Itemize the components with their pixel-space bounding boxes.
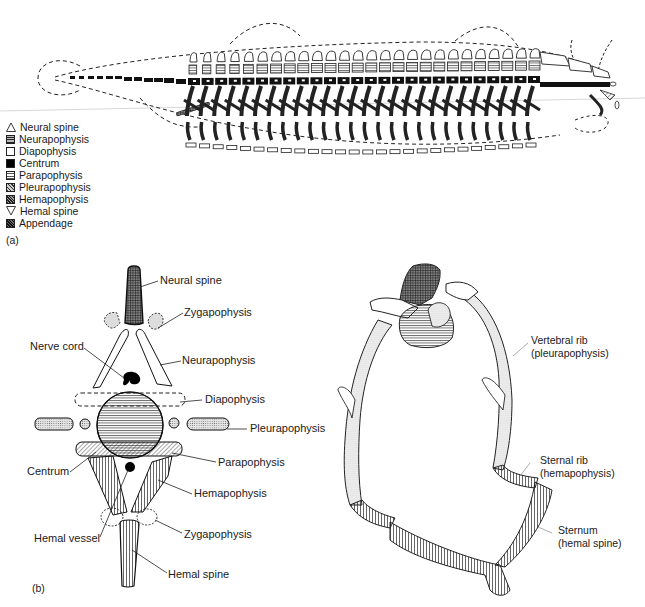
label-sternum: Sternum (hemal spine) [558, 524, 622, 550]
label-neurapophysis: Neurapophysis [182, 354, 255, 367]
label-line-2: (hemapophysis) [540, 467, 615, 480]
label-nerve-cord: Nerve cord [30, 340, 84, 353]
label-sternal-rib: Sternal rib (hemapophysis) [540, 454, 615, 480]
legend-label: Diapophysis [19, 145, 76, 157]
legend-item-parapophysis: Parapophysis [6, 169, 91, 181]
fish-skeleton [0, 23, 645, 154]
solid-square-icon [6, 159, 15, 168]
horizontal-lines-dark-swatch-icon [6, 135, 15, 144]
label-hemapophysis: Hemapophysis [194, 487, 267, 500]
legend-item-hemapophysis: Hemapophysis [6, 193, 91, 205]
legend-label: Hemal spine [20, 205, 78, 217]
legend-item-pleurapophysis: Pleurapophysis [6, 181, 91, 193]
legend-label: Neural spine [20, 121, 79, 133]
horizontal-lines-light-swatch-icon [6, 171, 15, 180]
label-vertebral-rib: Vertebral rib (pleurapophysis) [531, 334, 609, 360]
label-line-1: Sternum [558, 524, 622, 537]
diagonal-hatch-dark-swatch-icon [6, 195, 15, 204]
ribcage-diagram [338, 264, 552, 595]
legend-item-neurapophysis: Neurapophysis [6, 133, 91, 145]
label-parapophysis: Parapophysis [218, 456, 285, 469]
legend-label: Appendage [19, 217, 73, 229]
empty-square-icon [6, 147, 15, 156]
cross-hatch-swatch-icon [6, 219, 15, 228]
legend-label: Pleurapophysis [19, 181, 91, 193]
legend-item-centrum: Centrum [6, 157, 91, 169]
label-hemal-spine: Hemal spine [168, 568, 229, 581]
legend-label: Parapophysis [19, 169, 83, 181]
legend-item-diapophysis: Diapophysis [6, 145, 91, 157]
legend-item-appendage: Appendage [6, 217, 91, 229]
legend: Neural spine Neurapophysis Diapophysis C… [6, 121, 91, 229]
legend-label: Neurapophysis [19, 133, 89, 145]
legend-item-hemal-spine: Hemal spine [6, 205, 91, 217]
triangle-up-icon [6, 122, 16, 132]
label-line-2: (hemal spine) [558, 537, 622, 550]
label-zygapophysis-top: Zygapophysis [184, 306, 252, 319]
tail-vertebrae [70, 76, 186, 84]
label-line-1: Sternal rib [540, 454, 615, 467]
legend-label: Centrum [19, 157, 59, 169]
neural-spine-shape [125, 266, 143, 325]
legend-label: Hemapophysis [19, 193, 88, 205]
label-centrum: Centrum [27, 465, 69, 478]
trunk-vertebrae [184, 49, 540, 154]
label-pleurapophysis: Pleurapophysis [250, 422, 325, 435]
legend-item-neural-spine: Neural spine [6, 121, 91, 133]
label-zygapophysis-bottom: Zygapophysis [184, 528, 252, 541]
label-line-2: (pleurapophysis) [531, 347, 609, 360]
diagram-canvas [0, 0, 645, 607]
panel-b-tag: (b) [32, 582, 45, 594]
label-hemal-vessel: Hemal vessel [34, 532, 100, 545]
label-neural-spine: Neural spine [160, 274, 222, 287]
label-diapophysis: Diapophysis [205, 393, 265, 406]
head-region [540, 52, 619, 115]
label-line-1: Vertebral rib [531, 334, 609, 347]
diagonal-hatch-light-swatch-icon [6, 183, 15, 192]
panel-a-tag: (a) [6, 234, 19, 246]
triangle-down-icon [6, 206, 16, 216]
